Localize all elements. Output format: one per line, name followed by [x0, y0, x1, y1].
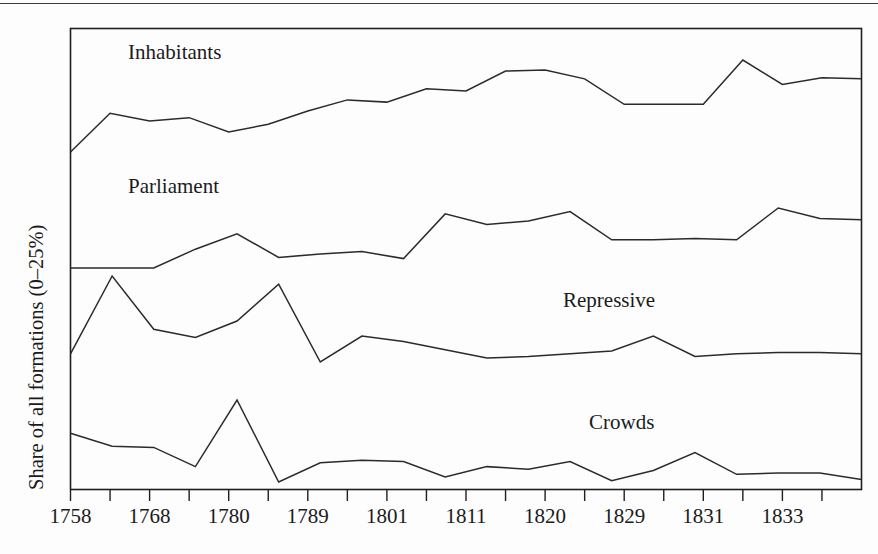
series-line-inhabitants	[71, 60, 862, 152]
x-axis-tick-label: 1789	[263, 506, 353, 527]
x-axis-tick-label: 1768	[105, 506, 195, 527]
x-axis-ticks	[71, 490, 822, 501]
x-axis-tick-label: 1811	[421, 506, 511, 527]
x-axis-tick-label: 1831	[658, 506, 748, 527]
x-axis-tick-label: 1780	[184, 506, 274, 527]
x-axis-tick-label: 1820	[500, 506, 590, 527]
series-label-parliament: Parliament	[128, 176, 219, 197]
x-axis-tick-label: 1829	[579, 506, 669, 527]
x-axis-tick-label: 1801	[342, 506, 432, 527]
series-line-crowds	[71, 400, 862, 482]
series-label-crowds: Crowds	[589, 412, 654, 433]
x-axis-tick-label: 1758	[26, 506, 116, 527]
plot-canvas	[0, 0, 878, 554]
data-lines	[71, 60, 862, 482]
series-label-repressive: Repressive	[563, 290, 655, 311]
x-axis-tick-label: 1833	[737, 506, 827, 527]
plot-frame	[71, 29, 862, 490]
series-label-inhabitants: Inhabitants	[128, 42, 221, 63]
chart-figure: Share of all formations (0–25%) Inhabita…	[0, 0, 878, 554]
series-line-parliament	[71, 208, 862, 268]
series-line-repressive	[71, 276, 862, 362]
